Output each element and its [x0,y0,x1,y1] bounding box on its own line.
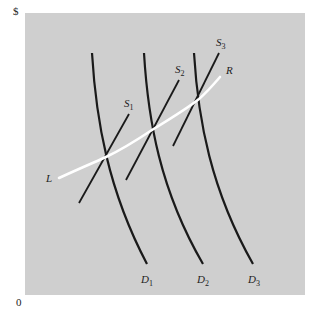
curve-start-label-l: L [45,172,52,184]
supply-demand-diagram: D1D2D3 S1S2S3 LR [0,0,317,309]
plot-area [25,13,305,295]
curve-end-label-r: R [225,64,233,76]
